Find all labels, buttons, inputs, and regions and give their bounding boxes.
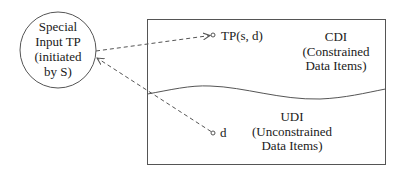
cdi-line-1: (Constrained [302, 44, 370, 59]
cdi-region: CDI (Constrained Data Items) [302, 29, 370, 73]
integrity-model-diagram: Special Input TP (initiated by S) CDI (C… [0, 0, 404, 176]
process-label-line-4: by S) [44, 64, 72, 79]
d-label: d [220, 125, 227, 140]
process-label-line-2: Input TP [35, 34, 81, 49]
tp-label: TP(s, d) [221, 28, 263, 43]
special-input-tp-node: Special Input TP (initiated by S) [20, 12, 96, 88]
dashed-arrow-to-tp [96, 36, 210, 52]
cdi-line-2: Data Items) [305, 58, 366, 73]
process-label-line-1: Special [39, 19, 78, 34]
tp-endpoint-dot [211, 33, 215, 37]
arrow-from-d: d [97, 58, 227, 140]
dashed-arrow-from-d [97, 58, 211, 132]
udi-line-2: Data Items) [261, 138, 322, 153]
process-label-line-3: (initiated [35, 49, 82, 64]
udi-region: UDI (Unconstrained Data Items) [252, 109, 333, 153]
arrow-to-tp: TP(s, d) [96, 28, 263, 51]
udi-line-1: (Unconstrained [252, 124, 333, 139]
udi-title: UDI [280, 109, 303, 124]
wavy-divider [148, 86, 386, 99]
cdi-title: CDI [325, 29, 347, 44]
d-endpoint-dot [211, 131, 215, 135]
